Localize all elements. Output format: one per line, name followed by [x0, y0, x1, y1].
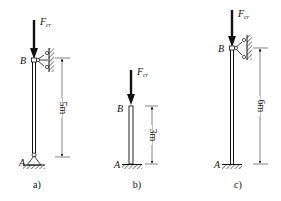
length-label: 5m — [58, 102, 69, 115]
lateral-support-icon — [234, 35, 252, 60]
load-label: Fcr — [237, 8, 250, 20]
point-b-label: B — [20, 55, 26, 66]
load-arrow-icon — [228, 10, 236, 47]
diagram-c: Fcr B A 6m c) — [213, 8, 268, 191]
load-label: Fcr — [39, 16, 52, 28]
diagram-a: Fcr B A — [18, 16, 70, 191]
column — [129, 106, 133, 164]
point-a-label: A — [113, 159, 121, 170]
lateral-support-icon — [36, 48, 54, 72]
length-label: 6m — [256, 100, 267, 113]
caption: a) — [33, 179, 41, 191]
point-a-label: A — [18, 157, 26, 168]
load-arrow-icon — [127, 70, 135, 105]
fixed-support-icon — [222, 165, 242, 170]
load-arrow-icon — [30, 20, 38, 59]
fixed-support-icon — [122, 165, 142, 170]
pin-support-icon — [23, 153, 45, 169]
diagram-b: Fcr B A 3m b) — [113, 66, 159, 191]
point-a-label: A — [213, 159, 221, 170]
column — [230, 46, 235, 164]
caption: b) — [133, 179, 141, 191]
length-label: 3m — [148, 129, 159, 142]
point-b-label: B — [117, 103, 123, 114]
load-label: Fcr — [136, 66, 149, 78]
column-buckling-figure: Fcr B A — [0, 0, 281, 201]
point-b-label: B — [218, 43, 224, 54]
caption: c) — [234, 179, 242, 191]
column — [32, 58, 37, 153]
